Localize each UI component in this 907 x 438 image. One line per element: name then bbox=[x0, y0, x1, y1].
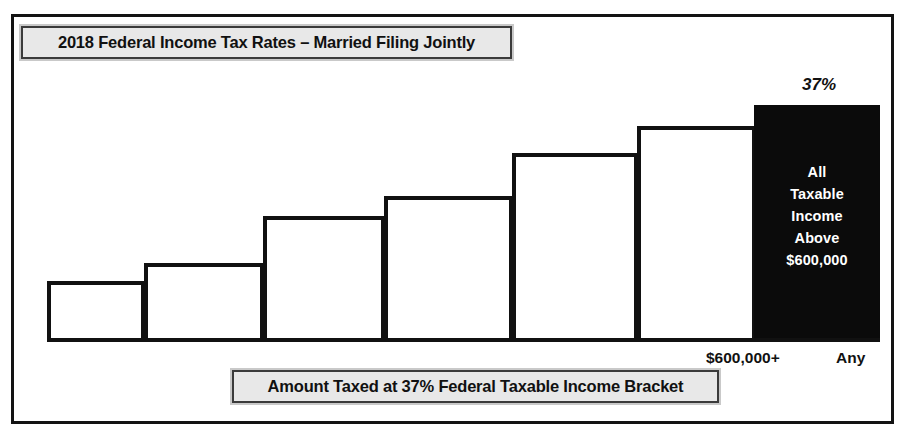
bar-value-label-37: 37% bbox=[759, 75, 879, 95]
bar-bracket-7-highlight[interactable]: All Taxable Income Above $600,000 bbox=[754, 105, 880, 342]
bar-inner-line-4: Above bbox=[758, 227, 876, 249]
chart-frame-border: All Taxable Income Above $600,000 37% $6… bbox=[11, 14, 894, 424]
chart-title-plate: 2018 Federal Income Tax Rates – Married … bbox=[21, 26, 512, 59]
bar-inner-line-3: Income bbox=[758, 205, 876, 227]
bar-bracket-1[interactable] bbox=[47, 281, 145, 342]
bar-bracket-4[interactable] bbox=[384, 196, 513, 342]
bar-inner-annotation: All Taxable Income Above $600,000 bbox=[758, 161, 876, 271]
x-axis-tick-threshold: $600,000+ bbox=[706, 349, 780, 367]
bar-inner-line-5: $600,000 bbox=[758, 249, 876, 271]
bar-bracket-6[interactable] bbox=[637, 126, 756, 342]
bar-bracket-3[interactable] bbox=[263, 216, 385, 342]
bar-bracket-5[interactable] bbox=[512, 153, 638, 342]
x-axis-tick-any: Any bbox=[836, 349, 865, 367]
chart-caption-plate: Amount Taxed at 37% Federal Taxable Inco… bbox=[232, 370, 719, 403]
x-axis-baseline bbox=[47, 338, 880, 342]
figure-page: All Taxable Income Above $600,000 37% $6… bbox=[0, 0, 907, 438]
bar-bracket-2[interactable] bbox=[144, 263, 264, 342]
bar-inner-line-2: Taxable bbox=[758, 183, 876, 205]
chart-caption-text: Amount Taxed at 37% Federal Taxable Inco… bbox=[268, 377, 684, 396]
chart-title-text: 2018 Federal Income Tax Rates – Married … bbox=[58, 33, 475, 52]
bar-inner-line-1: All bbox=[758, 161, 876, 183]
plot-area: All Taxable Income Above $600,000 37% $6… bbox=[14, 17, 897, 427]
